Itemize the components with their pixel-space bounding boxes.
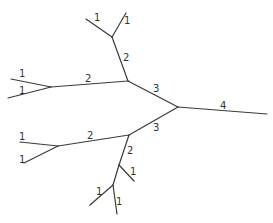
tree-edge-L1-leaf1	[11, 79, 51, 87]
tree-edge-L2-leaf1	[20, 142, 58, 146]
edge-length-label: 1	[19, 68, 25, 79]
edge-length-label: 4	[220, 100, 226, 111]
edge-length-label: 2	[127, 145, 133, 156]
edge-length-label: 1	[19, 131, 25, 142]
tree-edge-L1-leaf2	[8, 87, 51, 98]
edge-length-label: 1	[19, 85, 25, 96]
edge-length-label: 2	[85, 73, 91, 84]
edge-length-label: 1	[19, 154, 25, 165]
edge-length-label: 3	[153, 83, 159, 94]
tree-diagram: 4332112112112111	[0, 0, 273, 223]
tree-edge-M-N	[113, 165, 119, 185]
edge-length-label: 1	[96, 186, 102, 197]
edge-length-label: 1	[94, 12, 100, 23]
edge-length-label: 2	[123, 52, 129, 63]
tree-edge-L2-leaf2	[24, 146, 58, 163]
edge-length-label: 3	[153, 122, 159, 133]
edge-length-label: 1	[130, 166, 136, 177]
edge-length-label: 1	[124, 15, 130, 26]
tree-edge-B-L2	[58, 135, 129, 146]
edge-length-label: 2	[87, 130, 93, 141]
edge-length-label: 1	[116, 196, 122, 207]
